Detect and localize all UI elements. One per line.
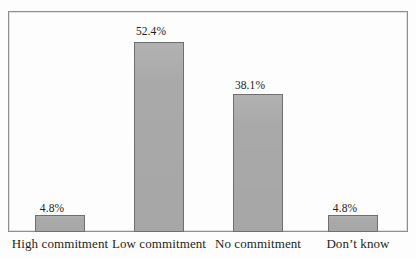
category-label-dont-know: Don’t know — [314, 236, 402, 252]
bar-shading — [135, 43, 183, 231]
bar-no-commitment — [233, 94, 283, 232]
category-axis: High commitment Low commitment No commit… — [8, 236, 408, 256]
bar-low-commitment — [134, 42, 184, 232]
value-label-no-commitment: 38.1% — [220, 79, 280, 91]
bar-chart: 4.8% 52.4% 38.1% 4.8% High commitment Lo… — [0, 0, 416, 259]
value-label-high-commitment: 4.8% — [27, 202, 77, 214]
bar-high-commitment — [35, 215, 85, 232]
category-label-no-commitment: No commitment — [204, 236, 312, 252]
category-label-low-commitment: Low commitment — [105, 236, 213, 252]
bar-shading — [329, 216, 377, 231]
value-label-low-commitment: 52.4% — [121, 25, 181, 37]
category-label-high-commitment: High commitment — [5, 236, 115, 252]
bars-layer — [8, 11, 408, 232]
bar-dont-know — [328, 215, 378, 232]
bar-shading — [234, 95, 282, 231]
bar-shading — [36, 216, 84, 231]
value-label-dont-know: 4.8% — [320, 202, 370, 214]
